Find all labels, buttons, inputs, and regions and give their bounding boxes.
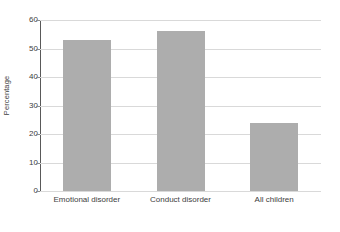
y-axis-tick-label: 50 <box>16 45 38 53</box>
y-axis-tick-mark <box>36 106 40 107</box>
y-axis-tick-label: 0 <box>16 187 38 195</box>
y-axis-tick-mark <box>36 134 40 135</box>
bar <box>157 31 205 191</box>
y-axis-tick-mark <box>36 163 40 164</box>
x-axis-tick-label: All children <box>255 196 294 205</box>
bar-chart-figure: Percentage 0102030405060 Emotional disor… <box>0 0 340 232</box>
plot-area <box>40 20 321 191</box>
y-axis-tick-mark <box>36 77 40 78</box>
y-axis-title-label: Percentage <box>3 76 12 115</box>
y-axis-tick-label: 20 <box>16 130 38 138</box>
y-axis-tick-mark <box>36 49 40 50</box>
y-axis-tick-label: 10 <box>16 159 38 167</box>
y-axis-tick-label: 40 <box>16 73 38 81</box>
y-axis-tick-mark <box>36 20 40 21</box>
x-axis-tick-label: Emotional disorder <box>53 196 120 205</box>
y-axis-tick-labels: 0102030405060 <box>12 0 38 232</box>
bar <box>250 123 298 191</box>
gridline <box>40 191 321 192</box>
y-axis-tick-label: 30 <box>16 102 38 110</box>
x-axis-tick-label: Conduct disorder <box>150 196 211 205</box>
y-axis-tick-mark <box>36 191 40 192</box>
y-axis-tick-label: 60 <box>16 16 38 24</box>
bar <box>63 40 111 191</box>
x-axis-tick-labels: Emotional disorderConduct disorderAll ch… <box>40 196 321 216</box>
gridline <box>40 20 321 21</box>
